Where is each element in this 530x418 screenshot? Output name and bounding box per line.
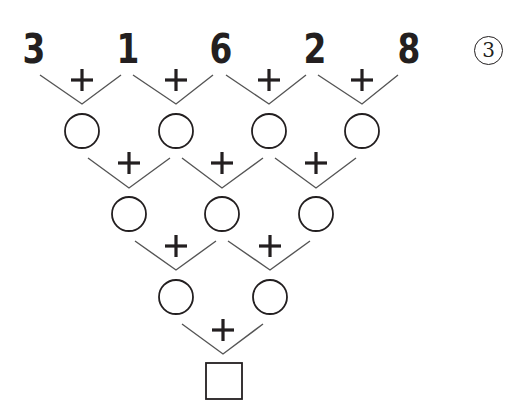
plus-icon (71, 69, 93, 91)
plus-icon (351, 69, 373, 91)
pyramid-diagram (0, 0, 530, 418)
plus-icon (305, 152, 327, 174)
plus-icon (165, 235, 187, 257)
plus-icon (212, 319, 234, 341)
plus-icon (211, 152, 233, 174)
plus-icon (165, 69, 187, 91)
blank-circle[interactable] (299, 197, 333, 231)
blank-circle[interactable] (159, 114, 193, 148)
blank-circle[interactable] (65, 114, 99, 148)
answer-circles (65, 114, 379, 314)
plus-icon (258, 69, 280, 91)
blank-circle[interactable] (205, 197, 239, 231)
addition-pyramid-worksheet: 3 1 6 2 8 3 (0, 0, 530, 418)
blank-circle[interactable] (159, 280, 193, 314)
plus-icon (118, 152, 140, 174)
blank-circle[interactable] (345, 114, 379, 148)
final-answer-box[interactable] (206, 363, 242, 399)
blank-circle[interactable] (253, 280, 287, 314)
plus-icon (259, 235, 281, 257)
blank-circle[interactable] (252, 114, 286, 148)
blank-circle[interactable] (112, 197, 146, 231)
